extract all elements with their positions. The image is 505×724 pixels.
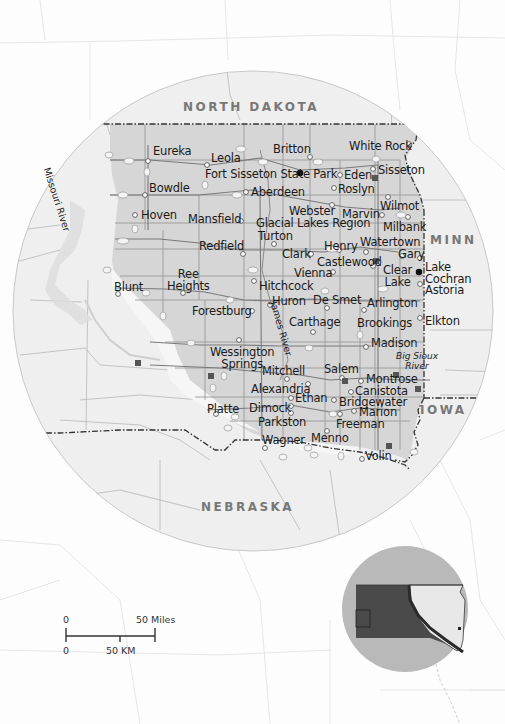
town-label: Freeman [336, 418, 385, 430]
town-label: Huron [272, 295, 306, 307]
town-label: Britton [273, 143, 311, 155]
town-label: Roslyn [338, 183, 375, 195]
scale-bar [66, 628, 155, 642]
town-label: Henry [324, 240, 358, 252]
town-label: Wagner [262, 434, 305, 446]
town-label: Sisseton [378, 164, 425, 176]
town-label: Blunt [114, 281, 143, 293]
map-root: NORTH DAKOTA NEBRASKA MINN IOWA Missouri… [0, 0, 505, 724]
town-label: Gary [398, 248, 425, 260]
town-label: Mitchell [262, 365, 305, 377]
park-marker-lake-cochran [416, 269, 423, 276]
town-label: Dimock [249, 402, 291, 414]
town-label: Hitchcock [259, 280, 314, 292]
scale-km-label: 50 KM [106, 645, 136, 656]
town-label: Clark [282, 248, 311, 260]
town-label: Ree Heights [167, 268, 210, 292]
town-label: De Smet [313, 294, 361, 306]
town-label: Forestburg [192, 305, 252, 317]
town-label: Lake Cochran [425, 261, 471, 285]
town-label: Carthage [289, 316, 340, 328]
town-label: Milbank [383, 221, 426, 233]
town-label: Brookings [357, 317, 412, 329]
scale-miles-label: 50 Miles [136, 614, 175, 625]
town-label: Menno [311, 432, 349, 444]
town-label: Eden [344, 169, 372, 181]
town-label: Madison [371, 337, 417, 349]
town-label: Redfield [199, 240, 244, 252]
town-label: Ethan [295, 392, 327, 404]
state-label-minnesota: MINN [430, 233, 477, 247]
town-label: Elkton [425, 315, 460, 327]
town-label: Parkston [258, 416, 306, 428]
town-label: Arlington [367, 297, 418, 309]
town-label: Platte [207, 403, 239, 415]
town-label: Salem [324, 363, 359, 375]
town-label: Clear Lake [383, 264, 412, 288]
town-label: White Rock [349, 140, 412, 152]
scale-km-zero: 0 [63, 645, 69, 656]
town-label: Glacial Lakes Region [256, 217, 370, 229]
river-label-big-sioux: Big Sioux River [396, 351, 438, 371]
town-label: Eureka [153, 145, 191, 157]
state-label-iowa: IOWA [420, 403, 467, 417]
town-label: Wilmot [380, 200, 419, 212]
town-label: Turton [258, 230, 293, 242]
town-label: Vienna [294, 267, 332, 279]
locator-map [342, 546, 468, 672]
town-label: Bowdle [149, 182, 190, 194]
town-label: Astoria [425, 284, 464, 296]
town-label: Leola [211, 152, 241, 164]
town-label: Fort Sisseton State Park [205, 168, 337, 180]
town-label: Aberdeen [251, 186, 305, 198]
town-label: Hoven [141, 209, 177, 221]
town-label: Mansfield [188, 213, 241, 225]
town-label: Volin [365, 450, 392, 462]
state-label-nebraska: NEBRASKA [201, 500, 294, 514]
scale-miles-zero: 0 [63, 614, 69, 625]
state-label-north-dakota: NORTH DAKOTA [183, 100, 319, 114]
